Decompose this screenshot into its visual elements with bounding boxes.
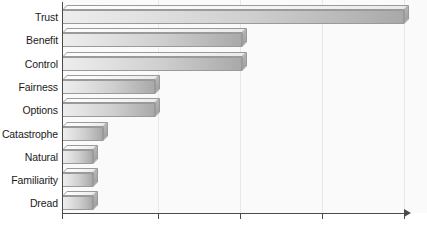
bar-familiarity (62, 168, 98, 187)
bar-front-face (62, 80, 155, 94)
x-tick-0 (62, 214, 63, 219)
bar-label-options: Options (0, 104, 58, 117)
bar-catastrophe (62, 122, 108, 141)
bar-fairness (62, 75, 160, 94)
bar-trust (62, 5, 409, 24)
bar-front-face (62, 103, 155, 117)
bar-natural (62, 145, 98, 164)
bar-label-natural: Natural (0, 151, 58, 164)
bar-label-trust: Trust (0, 11, 58, 24)
x-tick-4 (404, 214, 405, 219)
bar-chart: TrustBenefitControlFairnessOptionsCatast… (0, 0, 427, 231)
bar-front-face (62, 10, 404, 24)
bar-row: Fairness (0, 75, 427, 94)
bar-row: Trust (0, 5, 427, 24)
bar-label-catastrophe: Catastrophe (0, 128, 58, 141)
bar-front-face (62, 150, 93, 164)
x-tick-2 (240, 214, 241, 219)
bar-row: Options (0, 98, 427, 117)
bar-row: Catastrophe (0, 122, 427, 141)
bar-row: Familiarity (0, 168, 427, 187)
x-tick-1 (158, 214, 159, 219)
bar-front-face (62, 196, 93, 210)
bar-row: Natural (0, 145, 427, 164)
bar-row: Dread (0, 191, 427, 210)
bar-options (62, 98, 160, 117)
bar-row: Control (0, 52, 427, 71)
bar-benefit (62, 28, 247, 47)
x-axis-line (62, 213, 407, 214)
bar-dread (62, 191, 98, 210)
x-tick-3 (322, 214, 323, 219)
x-axis-arrow-icon (404, 209, 411, 217)
bar-row: Benefit (0, 28, 427, 47)
bar-label-familiarity: Familiarity (0, 174, 58, 187)
bar-label-fairness: Fairness (0, 81, 58, 94)
bar-label-benefit: Benefit (0, 34, 58, 47)
bar-front-face (62, 127, 103, 141)
bar-front-face (62, 173, 93, 187)
bar-label-control: Control (0, 58, 58, 71)
y-axis-line (62, 2, 63, 213)
bar-front-face (62, 33, 242, 47)
bar-label-dread: Dread (0, 197, 58, 210)
bar-control (62, 52, 247, 71)
bar-front-face (62, 57, 242, 71)
